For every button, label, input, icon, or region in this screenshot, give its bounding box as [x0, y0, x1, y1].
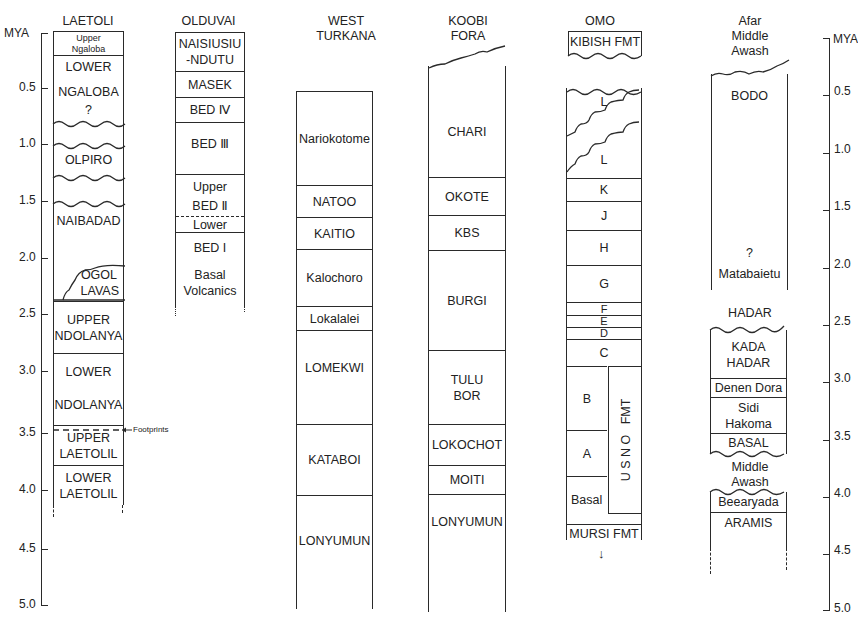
unit-tulu-bor: TULU BOR	[429, 350, 505, 424]
left-axis-line	[41, 33, 42, 606]
right-axis-tick	[823, 325, 830, 326]
olduvai-column: NAISIUSIU-NDUTU MASEK BED Ⅳ BED Ⅲ Upper …	[175, 32, 245, 308]
right-axis-tick	[823, 382, 830, 383]
unit-kalochoro: Kalochoro	[297, 249, 372, 306]
left-axis-tick	[41, 33, 48, 34]
unit-d: D	[567, 327, 641, 339]
unit-kada-hadar: KADA HADAR	[711, 334, 786, 376]
unit-kataboi: KATABOI	[297, 424, 372, 495]
unit-burgi: BURGI	[429, 250, 505, 350]
right-axis-tick	[823, 153, 830, 154]
unit-mursi-fmt: MURSI FMT	[567, 526, 641, 542]
unit-l-lower: L	[567, 148, 641, 172]
laetoli-dashed-extension	[53, 505, 54, 517]
hadar-unconformity-bottom	[710, 448, 790, 460]
unit-bodo: BODO	[712, 84, 787, 108]
unit-g: G	[567, 265, 641, 302]
omo-column: L L K J H G F E D C B A Basal U S N O FM…	[566, 88, 642, 540]
unit-bed-i: BED I	[176, 232, 244, 262]
unit-natoo: NATOO	[297, 185, 372, 217]
left-axis-tick	[41, 314, 48, 315]
west-turkana-column: Nariokotome NATOO KAITIO Kalochoro Lokal…	[296, 91, 373, 609]
right-axis-tick	[823, 95, 830, 96]
koobi-fora-column: CHARI OKOTE KBS BURGI TULU BOR LOKOCHOT …	[428, 66, 506, 612]
right-tick-label: 3.5	[834, 429, 851, 443]
unit-c: C	[567, 339, 641, 366]
laetoli-unconformity-lines	[53, 0, 125, 629]
right-axis-line	[829, 38, 830, 610]
unit-beearyada: Beearyada	[711, 492, 786, 512]
left-axis-tick	[41, 371, 48, 372]
laetoli-dashed-extension	[122, 505, 123, 513]
unit-lokochot: LOKOCHOT	[429, 424, 505, 465]
left-tick-label: 5.0	[19, 597, 36, 611]
unit-denen-dora: Denen Dora	[711, 378, 786, 397]
unit-kibish-fmt: KIBISH FMT	[569, 32, 641, 52]
left-tick-label: 2.0	[19, 250, 36, 264]
left-axis-tick	[41, 88, 48, 89]
footprints-label: Footprints	[133, 425, 169, 434]
right-tick-label: 5.0	[834, 601, 851, 615]
unit-lokalalei: Lokalalei	[297, 306, 372, 330]
hadar-title: HADAR	[710, 306, 790, 321]
right-tick-label: 4.5	[834, 543, 851, 557]
right-tick-label: 0.5	[834, 84, 851, 98]
left-tick-label: 3.5	[19, 425, 36, 439]
right-tick-label: 1.0	[834, 142, 851, 156]
unit-kaitio: KAITIO	[297, 217, 372, 249]
left-axis-tick	[41, 549, 48, 550]
left-axis-tick	[41, 201, 48, 202]
unit-sidi-hakoma: Sidi Hakoma	[711, 397, 786, 433]
unit-a: A	[567, 430, 607, 476]
right-tick-label: 4.0	[834, 486, 851, 500]
unit-lonyumun: LONYUMUN	[297, 495, 372, 605]
right-tick-label: 3.0	[834, 371, 851, 385]
unit-nariokotome: Nariokotome	[297, 92, 372, 185]
right-axis-tick	[823, 554, 830, 555]
unit-masek: MASEK	[176, 71, 244, 97]
left-tick-label: 2.5	[19, 306, 36, 320]
middle-awash-dashed-extension	[710, 548, 711, 574]
right-axis-label: MYA	[833, 32, 858, 46]
left-axis-tick	[41, 258, 48, 259]
unit-matabaietu: Matabaietu	[712, 264, 787, 284]
unit-lomekwi: LOMEKWI	[297, 330, 372, 424]
omo-title: OMO	[560, 14, 640, 29]
unit-e: E	[567, 315, 641, 327]
unit-aramis: ARAMIS	[711, 512, 786, 532]
unit-chari: CHARI	[429, 66, 505, 177]
left-axis-tick	[41, 144, 48, 145]
left-axis-tick	[41, 433, 48, 434]
middle-awash-column: Beearyada ARAMIS	[710, 492, 787, 548]
unit-j: J	[567, 201, 641, 230]
middle-awash-dashed-extension	[786, 548, 787, 570]
unit-upper-bed-ii-a: Upper	[176, 174, 244, 198]
right-axis-tick	[823, 38, 830, 39]
olduvai-dashed-extension	[244, 300, 245, 312]
unit-k: K	[567, 178, 641, 201]
afar-title: Afar Middle Awash	[710, 14, 790, 59]
west-turkana-title: WEST TURKANA	[296, 14, 396, 44]
right-axis-tick	[823, 268, 830, 269]
kibish-unconformity	[568, 50, 643, 62]
unit-l-upper: L	[567, 90, 641, 114]
left-tick-label: 4.0	[19, 482, 36, 496]
unit-moiti: MOITI	[429, 465, 505, 494]
left-axis-label: MYA	[4, 26, 29, 40]
unit-usno-fmt: U S N O FMT	[608, 366, 642, 514]
afar-column: BODO ? Matabaietu	[711, 74, 788, 290]
unit-bed-iv: BED Ⅳ	[176, 97, 244, 122]
omo-basal-bottom	[567, 524, 641, 525]
unit-f: F	[567, 302, 641, 315]
olduvai-dashed-extension	[175, 300, 176, 316]
right-axis-tick	[823, 497, 830, 498]
left-tick-label: 1.5	[19, 193, 36, 207]
right-tick-label: 2.0	[834, 257, 851, 271]
unit-basal-volcanics: Basal Volcanics	[176, 263, 244, 303]
koobi-fora-title: KOOBI FORA	[418, 14, 518, 44]
left-tick-label: 0.5	[19, 80, 36, 94]
unit-okote: OKOTE	[429, 177, 505, 215]
unit-kbs: KBS	[429, 215, 505, 250]
unit-naisiusiu-ndutu: NAISIUSIU-NDUTU	[176, 33, 244, 71]
unit-b: B	[567, 366, 607, 430]
